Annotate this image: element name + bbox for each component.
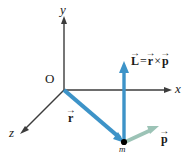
equation-p-arrow-accent: → <box>160 48 170 58</box>
equation-r-arrow-accent: → <box>145 48 155 58</box>
z-axis-line <box>26 90 64 128</box>
y-axis-label: y <box>60 3 66 16</box>
p-vector-label-glyph: →p <box>161 133 168 145</box>
L-vector-arrowhead <box>119 61 129 73</box>
x-axis-label: x <box>175 82 181 95</box>
p-vector-arrow-accent: → <box>159 126 169 136</box>
x-axis-arrowhead <box>164 87 172 93</box>
origin-label: O <box>45 72 54 85</box>
L-vector-label-glyph: →L <box>131 55 139 67</box>
equation-p-glyph: →p <box>162 55 169 67</box>
r-vector-label: →r <box>68 112 73 124</box>
angular-momentum-figure: y x z O →r →p m →L=→r×→p <box>0 0 193 158</box>
y-axis-arrowhead <box>61 16 67 24</box>
L-vector-arrow-accent: → <box>130 48 140 58</box>
p-vector-label: →p <box>161 133 168 145</box>
r-vector-arrow-accent: → <box>66 105 76 115</box>
p-vector-shaft <box>125 130 151 142</box>
equation-r-glyph: →r <box>148 55 153 67</box>
mass-point-label: m <box>119 145 126 154</box>
angular-momentum-equation: →L=→r×→p <box>131 55 169 67</box>
z-axis-label: z <box>9 126 14 139</box>
r-vector-label-glyph: →r <box>68 112 73 124</box>
